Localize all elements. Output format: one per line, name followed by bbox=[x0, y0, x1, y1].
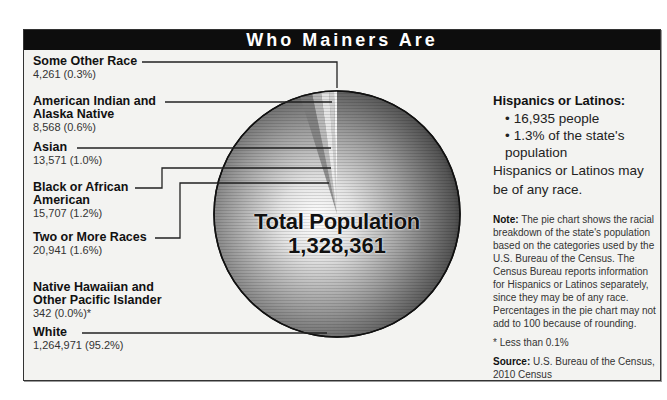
note-text: Note: The pie chart shows the racial bre… bbox=[493, 213, 659, 330]
footnote-less-than: * Less than 0.1% bbox=[493, 337, 659, 348]
any-race-text: Hispanics or Latinos may be of any race. bbox=[493, 161, 659, 199]
label-american-indian: American Indian and Alaska Native 8,568 … bbox=[33, 95, 156, 134]
hispanic-info-panel: Hispanics or Latinos: 16,935 people 1.3%… bbox=[493, 93, 659, 381]
leader-some-other-race bbox=[142, 62, 337, 88]
label-asian: Asian 13,571 (1.0%) bbox=[33, 141, 102, 167]
hispanic-heading: Hispanics or Latinos: bbox=[493, 93, 659, 108]
label-some-other-race: Some Other Race 4,261 (0.3%) bbox=[33, 55, 137, 81]
label-native-hawaiian: Native Hawaiian and Other Pacific Island… bbox=[33, 281, 162, 320]
pie-center-label: Total Population 1,328,361 bbox=[237, 210, 437, 258]
label-black: Black or African American 15,707 (1.2%) bbox=[33, 181, 128, 220]
label-white: White 1,264,971 (95.2%) bbox=[33, 326, 124, 352]
hispanic-bullets: 16,935 people 1.3% of the state's popula… bbox=[493, 110, 659, 161]
bullet-people: 16,935 people bbox=[515, 110, 659, 127]
bullet-percent: 1.3% of the state's bbox=[515, 127, 659, 144]
source-text: Source: U.S. Bureau of the Census, 2010 … bbox=[493, 355, 659, 381]
label-two-or-more: Two or More Races 20,941 (1.6%) bbox=[33, 231, 147, 257]
bullet-percent-cont: population bbox=[515, 144, 659, 161]
